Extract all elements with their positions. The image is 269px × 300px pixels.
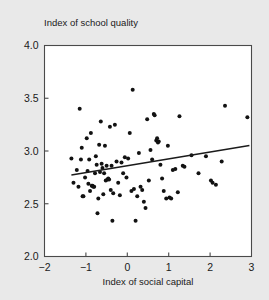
data-point: [71, 181, 75, 185]
x-tick-label--2: −2: [39, 261, 51, 273]
data-point: [83, 175, 87, 179]
data-point: [144, 206, 148, 210]
data-point: [153, 113, 157, 117]
y-tick-label-2.0: 2.0: [24, 250, 39, 262]
data-point: [79, 157, 83, 161]
x-tick-label--1: −1: [80, 261, 92, 273]
x-tick-label-1: 1: [166, 261, 172, 273]
data-point: [116, 181, 120, 185]
y-tick-label-3.5: 3.5: [24, 92, 39, 104]
data-point: [142, 200, 146, 204]
data-point: [118, 193, 122, 197]
y-tick-label-4.0: 4.0: [24, 39, 39, 51]
data-point: [177, 114, 181, 118]
data-point: [69, 156, 73, 160]
data-point: [157, 140, 161, 144]
data-point: [223, 104, 227, 108]
data-point: [95, 163, 99, 167]
data-point: [85, 136, 89, 140]
data-point: [76, 185, 80, 189]
data-point: [78, 107, 82, 111]
data-point: [176, 190, 180, 194]
data-point: [137, 151, 141, 155]
data-point: [100, 162, 104, 166]
data-point: [88, 189, 92, 193]
data-point: [197, 171, 201, 175]
data-point: [96, 196, 100, 200]
data-point: [108, 125, 112, 129]
y-tick-label-3.0: 3.0: [24, 145, 39, 157]
data-point: [121, 171, 125, 175]
data-point: [75, 168, 79, 172]
data-point: [160, 176, 164, 180]
data-point: [158, 163, 162, 167]
data-point: [220, 160, 224, 164]
data-point: [166, 144, 170, 148]
data-point: [169, 196, 173, 200]
data-point: [109, 188, 113, 192]
x-axis-title: Index of social capital: [103, 276, 194, 287]
data-point: [89, 131, 93, 135]
data-point: [103, 144, 107, 148]
data-point: [115, 160, 119, 164]
data-point: [211, 181, 215, 185]
data-point: [92, 185, 96, 189]
data-point: [135, 194, 139, 198]
data-point: [107, 177, 111, 181]
data-point: [94, 154, 98, 158]
data-point: [147, 179, 151, 183]
x-tick-label-0: 0: [124, 261, 130, 273]
data-point: [145, 117, 149, 121]
data-point: [113, 123, 117, 127]
data-point: [134, 219, 138, 223]
y-tick-label-2.5: 2.5: [24, 198, 39, 210]
x-tick-label-2: 2: [207, 261, 213, 273]
chart-canvas: Index of school quality 2.02.53.03.54.0 …: [0, 0, 269, 300]
data-point: [120, 161, 124, 165]
data-point: [86, 182, 90, 186]
data-point: [124, 175, 128, 179]
data-point: [182, 165, 186, 169]
x-tick-label-3: 3: [249, 261, 255, 273]
data-point: [110, 219, 114, 223]
data-point: [110, 164, 114, 168]
data-point: [204, 154, 208, 158]
data-point: [131, 88, 135, 92]
data-point: [95, 211, 99, 215]
data-point: [81, 194, 85, 198]
data-point: [173, 167, 177, 171]
data-point: [97, 143, 101, 147]
y-axis-title: Index of school quality: [44, 17, 138, 28]
data-point: [140, 188, 144, 192]
data-point: [99, 119, 103, 123]
data-point: [126, 156, 130, 160]
data-point: [148, 148, 152, 152]
data-point: [132, 187, 136, 191]
data-point: [214, 183, 218, 187]
data-point: [80, 146, 84, 150]
data-point: [87, 157, 91, 161]
data-point: [128, 131, 132, 135]
data-point: [102, 171, 106, 175]
data-point: [162, 189, 166, 193]
scatter-plot-figure: Index of school quality 2.02.53.03.54.0 …: [0, 0, 269, 300]
data-point: [245, 115, 249, 119]
data-point: [105, 164, 109, 168]
data-point: [111, 191, 115, 195]
data-point: [101, 192, 105, 196]
